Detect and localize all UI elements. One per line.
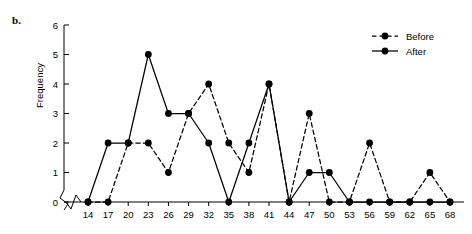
line-chart: 0123456141720232629323538414447505356596…: [0, 0, 472, 234]
data-point: [105, 199, 112, 206]
x-tick-label: 20: [123, 209, 134, 220]
data-point: [85, 199, 92, 206]
legend-item-after[interactable]: After: [372, 46, 426, 57]
x-tick-label: 23: [143, 209, 154, 220]
data-point: [225, 140, 232, 147]
x-tick-label: 17: [103, 209, 114, 220]
legend-label: Before: [406, 31, 434, 42]
y-tick-label: 4: [53, 79, 58, 90]
series-before: [85, 81, 454, 206]
x-tick-label: 62: [404, 209, 415, 220]
data-point: [447, 199, 454, 206]
series-line: [88, 84, 450, 202]
x-tick-label: 26: [163, 209, 174, 220]
data-point: [205, 140, 212, 147]
y-tick-label: 2: [53, 138, 58, 149]
data-point: [165, 110, 172, 117]
x-tick-label: 44: [284, 209, 295, 220]
x-tick-label: 41: [264, 209, 275, 220]
legend: BeforeAfter: [372, 31, 434, 57]
x-tick-label: 53: [344, 209, 355, 220]
data-point: [105, 140, 112, 147]
y-axis-label: Frequency: [34, 41, 45, 131]
data-point: [326, 169, 333, 176]
legend-marker-icon: [382, 33, 389, 40]
data-point: [326, 199, 333, 206]
data-point: [286, 199, 293, 206]
data-point: [165, 169, 172, 176]
legend-item-before[interactable]: Before: [372, 31, 434, 42]
series-after: [85, 51, 454, 205]
data-point: [145, 140, 152, 147]
legend-marker-icon: [382, 48, 389, 55]
x-tick-label: 59: [384, 209, 395, 220]
panel-label: b.: [12, 14, 21, 26]
series-line: [88, 55, 450, 203]
x-tick-label: 47: [304, 209, 315, 220]
y-tick-label: 6: [53, 20, 58, 31]
y-tick-label: 0: [53, 197, 58, 208]
x-tick-label: 32: [203, 209, 214, 220]
x-tick-label: 35: [223, 209, 234, 220]
data-point: [366, 140, 373, 147]
data-point: [245, 169, 252, 176]
x-axis: 14172023262932353841444750535659626568: [64, 195, 464, 220]
x-tick-label: 56: [364, 209, 375, 220]
y-tick-label: 5: [53, 49, 58, 60]
data-point: [406, 199, 413, 206]
data-point: [366, 199, 373, 206]
data-point: [205, 81, 212, 88]
figure-panel: b. Frequency 012345614172023262932353841…: [0, 0, 472, 234]
data-point: [306, 169, 313, 176]
y-axis: 0123456: [53, 20, 69, 211]
data-point: [306, 110, 313, 117]
data-point: [266, 81, 273, 88]
data-point: [245, 140, 252, 147]
data-point: [225, 199, 232, 206]
data-point: [185, 110, 192, 117]
data-point: [426, 199, 433, 206]
data-point: [346, 199, 353, 206]
x-tick-label: 50: [324, 209, 335, 220]
x-tick-label: 65: [425, 209, 436, 220]
x-tick-label: 14: [83, 209, 94, 220]
legend-label: After: [406, 46, 426, 57]
data-point: [386, 199, 393, 206]
x-tick-label: 68: [445, 209, 456, 220]
data-point: [125, 140, 132, 147]
y-tick-label: 3: [53, 108, 58, 119]
x-tick-label: 29: [183, 209, 194, 220]
x-tick-label: 38: [244, 209, 255, 220]
data-point: [145, 51, 152, 58]
data-point: [426, 169, 433, 176]
y-tick-label: 1: [53, 167, 58, 178]
